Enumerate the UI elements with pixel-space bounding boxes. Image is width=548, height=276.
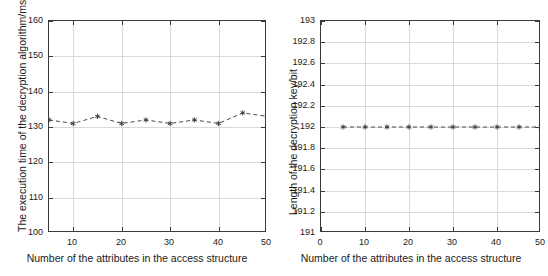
y-tick-label: 130 bbox=[0, 121, 43, 131]
x-tick-label: 50 bbox=[535, 237, 545, 247]
x-tick-mark-top bbox=[497, 21, 498, 25]
x-tick-label: 20 bbox=[403, 237, 413, 247]
y-tick-mark-right bbox=[261, 21, 265, 22]
x-tick-label: 0 bbox=[317, 237, 322, 247]
y-tick-mark bbox=[49, 56, 53, 57]
y-tick-label: 192.4 bbox=[274, 79, 315, 89]
y-tick-mark bbox=[321, 42, 325, 43]
y-tick-mark-right bbox=[535, 63, 539, 64]
y-tick-label: 191.8 bbox=[274, 142, 315, 152]
y-tick-mark bbox=[321, 212, 325, 213]
series-right bbox=[321, 21, 540, 232]
data-point-marker bbox=[265, 114, 266, 119]
series-left bbox=[49, 21, 266, 232]
y-tick-mark bbox=[49, 198, 53, 199]
y-tick-mark bbox=[321, 21, 325, 22]
x-tick-label: 10 bbox=[359, 237, 369, 247]
x-tick-label: 10 bbox=[67, 237, 77, 247]
y-tick-mark-right bbox=[535, 148, 539, 149]
y-tick-mark bbox=[321, 63, 325, 64]
x-tick-label: 20 bbox=[116, 237, 126, 247]
y-tick-label: 140 bbox=[0, 86, 43, 96]
x-axis-label-right: Number of the attributes in the access s… bbox=[274, 252, 548, 264]
y-tick-label: 191 bbox=[274, 227, 315, 237]
x-tick-mark-top bbox=[365, 21, 366, 25]
y-tick-mark bbox=[49, 162, 53, 163]
y-tick-mark-right bbox=[535, 212, 539, 213]
series-line bbox=[49, 113, 266, 124]
y-tick-label: 192 bbox=[274, 121, 315, 131]
y-tick-mark-right bbox=[535, 191, 539, 192]
y-tick-mark bbox=[321, 127, 325, 128]
y-tick-mark bbox=[321, 85, 325, 86]
x-tick-label: 30 bbox=[164, 237, 174, 247]
x-tick-label: 50 bbox=[261, 237, 271, 247]
x-tick-label: 30 bbox=[447, 237, 457, 247]
x-tick-mark-top bbox=[453, 21, 454, 25]
y-tick-mark bbox=[49, 21, 53, 22]
x-tick-mark bbox=[122, 227, 123, 231]
y-tick-label: 191.6 bbox=[274, 163, 315, 173]
y-tick-mark-right bbox=[535, 85, 539, 86]
y-tick-label: 160 bbox=[0, 15, 43, 25]
y-tick-mark-right bbox=[535, 42, 539, 43]
y-tick-mark bbox=[321, 148, 325, 149]
y-tick-mark-right bbox=[535, 127, 539, 128]
x-tick-mark-top bbox=[219, 21, 220, 25]
x-tick-mark-top bbox=[73, 21, 74, 25]
x-tick-mark bbox=[409, 227, 410, 231]
data-point-marker bbox=[241, 110, 246, 115]
figure-root: The execution time of the decryption alg… bbox=[0, 0, 548, 276]
x-tick-mark-top bbox=[409, 21, 410, 25]
plot-area-right bbox=[320, 20, 540, 232]
chart-panel-left: The execution time of the decryption alg… bbox=[0, 0, 274, 276]
y-tick-mark bbox=[49, 127, 53, 128]
x-tick-mark bbox=[321, 227, 322, 231]
y-tick-label: 191.4 bbox=[274, 185, 315, 195]
x-tick-mark bbox=[365, 227, 366, 231]
x-tick-mark bbox=[170, 227, 171, 231]
x-tick-mark bbox=[497, 227, 498, 231]
y-tick-label: 192.2 bbox=[274, 100, 315, 110]
y-tick-mark bbox=[321, 191, 325, 192]
y-tick-label: 120 bbox=[0, 156, 43, 166]
x-tick-mark bbox=[453, 227, 454, 231]
x-tick-mark bbox=[73, 227, 74, 231]
x-tick-label: 40 bbox=[213, 237, 223, 247]
x-tick-mark bbox=[219, 227, 220, 231]
x-axis-label-left: Number of the attributes in the access s… bbox=[0, 252, 274, 264]
y-tick-label: 100 bbox=[0, 227, 43, 237]
y-tick-label: 110 bbox=[0, 192, 43, 202]
y-tick-label: 192.6 bbox=[274, 57, 315, 67]
y-tick-mark-right bbox=[535, 21, 539, 22]
y-tick-mark-right bbox=[535, 169, 539, 170]
y-tick-mark-right bbox=[261, 162, 265, 163]
y-tick-mark bbox=[49, 92, 53, 93]
x-tick-mark-top bbox=[170, 21, 171, 25]
y-tick-mark bbox=[321, 169, 325, 170]
y-tick-label: 192.8 bbox=[274, 36, 315, 46]
chart-panel-right: Length of the decryption key/bit 0102030… bbox=[274, 0, 548, 276]
y-tick-mark-right bbox=[535, 106, 539, 107]
x-tick-label: 40 bbox=[491, 237, 501, 247]
y-tick-mark bbox=[321, 106, 325, 107]
y-tick-mark-right bbox=[261, 92, 265, 93]
y-tick-label: 150 bbox=[0, 50, 43, 60]
y-tick-mark-right bbox=[261, 198, 265, 199]
y-tick-mark-right bbox=[261, 56, 265, 57]
y-tick-mark-right bbox=[261, 127, 265, 128]
x-tick-mark-top bbox=[122, 21, 123, 25]
y-tick-label: 191.2 bbox=[274, 206, 315, 216]
plot-area-left bbox=[48, 20, 266, 232]
y-tick-label: 193 bbox=[274, 15, 315, 25]
